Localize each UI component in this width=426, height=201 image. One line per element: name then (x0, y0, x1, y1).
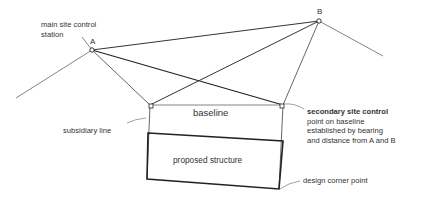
main-station-label: main site control station (41, 20, 96, 39)
secondary-point-leader (284, 104, 304, 109)
secondary-point-left-marker (149, 104, 153, 108)
design-corner-point-label: design corner point (303, 176, 368, 186)
secondary-control-point-label: secondary site control point on baseline… (307, 107, 396, 145)
secondary-label-line2: point on baseline (307, 117, 396, 127)
survey-control-diagram: A B main site control station baseline s… (0, 0, 426, 201)
design-corner-leader (280, 181, 300, 189)
main-station-label-line1: main site control (41, 20, 96, 30)
subsidiary-line-leader (127, 118, 146, 123)
station-b-marker (317, 19, 321, 23)
station-b-label: B (317, 7, 322, 16)
baseline-label: baseline (193, 107, 228, 118)
line-a-extension-left (16, 50, 92, 98)
line-b-baseline-right (283, 21, 319, 105)
line-b-extension-right (319, 21, 383, 56)
proposed-structure-label: proposed structure (173, 155, 242, 165)
secondary-label-line1: secondary site control (307, 107, 396, 117)
secondary-label-line4: and distance from A and B (307, 136, 396, 146)
secondary-label-line3: established by bearing (307, 126, 396, 136)
station-a-marker (90, 48, 94, 52)
line-b-baseline-left (150, 21, 319, 105)
subsidiary-line-label: subsidiary line (63, 126, 111, 136)
line-a-b (92, 21, 319, 50)
secondary-point-right-marker (280, 104, 284, 108)
main-station-label-line2: station (41, 30, 96, 40)
